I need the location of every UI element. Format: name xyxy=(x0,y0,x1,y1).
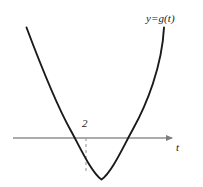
t-axis-label: t xyxy=(176,142,179,153)
x-tick-label-2: 2 xyxy=(82,118,88,129)
curve-label: y=g(t) xyxy=(146,13,175,24)
parabola-curve xyxy=(27,28,165,180)
function-graph-figure: y=g(t) t 2 xyxy=(0,0,203,187)
graph-canvas xyxy=(0,0,203,187)
